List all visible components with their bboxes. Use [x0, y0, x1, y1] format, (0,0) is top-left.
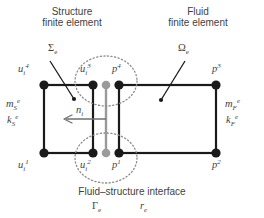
fluid-title: Fluid finite element — [148, 6, 248, 28]
r-e-label: re — [140, 200, 147, 212]
u4-superscript: 4 — [25, 62, 29, 70]
u2-subscript: i — [85, 165, 87, 173]
normal-vector-label: ni — [76, 104, 83, 116]
node-label-u1: ui1 — [18, 159, 29, 171]
structure-title-line1: Structure — [22, 6, 122, 17]
fluid-title-line1: Fluid — [148, 6, 248, 17]
u3-subscript: i — [85, 69, 87, 77]
fsi-finite-element-diagram: Structure finite element Fluid finite el… — [0, 0, 264, 218]
structure-stiffness-subscript: S — [12, 120, 16, 128]
node-p4 — [114, 80, 123, 89]
p1-superscript: 1 — [117, 158, 121, 166]
fluid-mass-subscript: F — [233, 104, 237, 112]
fluid-stiffness-superscript: e — [235, 113, 238, 121]
node-p3 — [211, 80, 220, 89]
node-label-p3: p3 — [212, 63, 221, 75]
normal-subscript: i — [81, 110, 83, 118]
p2-superscript: 2 — [217, 158, 221, 166]
node-label-p4: p4 — [112, 63, 121, 75]
interface-caption: Fluid–structure interface — [52, 186, 212, 197]
structure-stiffness-superscript: e — [15, 113, 18, 121]
u4-subscript: i — [23, 69, 25, 77]
u2-superscript: 2 — [87, 158, 91, 166]
structure-title-line2: finite element — [22, 17, 122, 28]
p4-superscript: 4 — [117, 62, 121, 70]
node-u1 — [39, 148, 48, 157]
node-label-u2: ui2 — [80, 159, 91, 171]
omega-leader-dot — [159, 98, 163, 102]
node-u4 — [39, 80, 48, 89]
fluid-element-rect — [119, 85, 216, 153]
structure-stiffness-label: kSe — [7, 114, 18, 126]
structure-mass-superscript: e — [17, 97, 20, 105]
omega-leader-line — [161, 61, 185, 100]
structure-mass-symbol: m — [6, 98, 14, 109]
sigma-subscript: e — [54, 48, 57, 56]
gamma-e-label: Γe — [92, 200, 101, 212]
node-interface-bottom — [102, 149, 111, 158]
r-subscript: e — [144, 206, 147, 214]
node-p1 — [114, 148, 123, 157]
u1-subscript: i — [23, 165, 25, 173]
node-label-p1: p1 — [112, 159, 121, 171]
fluid-mass-superscript: e — [237, 97, 240, 105]
fluid-mass-label: mFe — [225, 98, 240, 110]
sigma-leader-dot — [72, 97, 76, 101]
sigma-e-label: Σe — [48, 42, 57, 54]
omega-e-label: Ωe — [178, 42, 189, 54]
node-label-u3: ui3 — [80, 63, 91, 75]
fluid-title-line2: finite element — [148, 17, 248, 28]
node-label-p2: p2 — [212, 159, 221, 171]
node-p2 — [211, 148, 220, 157]
fluid-mass-symbol: m — [225, 98, 233, 109]
node-u3 — [88, 80, 97, 89]
u1-superscript: 1 — [25, 158, 29, 166]
omega-symbol: Ω — [178, 42, 186, 53]
structure-mass-label: mSe — [6, 98, 20, 110]
fluid-stiffness-subscript: F — [231, 120, 235, 128]
interface-caption-text: Fluid–structure interface — [78, 186, 185, 197]
node-interface-top — [102, 81, 111, 90]
u3-superscript: 3 — [87, 62, 91, 70]
structure-mass-subscript: S — [14, 104, 18, 112]
gamma-subscript: e — [98, 206, 101, 214]
node-label-u4: ui4 — [18, 63, 29, 75]
fluid-stiffness-label: kFe — [226, 114, 238, 126]
structure-title: Structure finite element — [22, 6, 122, 28]
sigma-leader-line — [50, 61, 74, 99]
omega-subscript: e — [186, 48, 189, 56]
node-u2 — [88, 148, 97, 157]
p3-superscript: 3 — [217, 62, 221, 70]
